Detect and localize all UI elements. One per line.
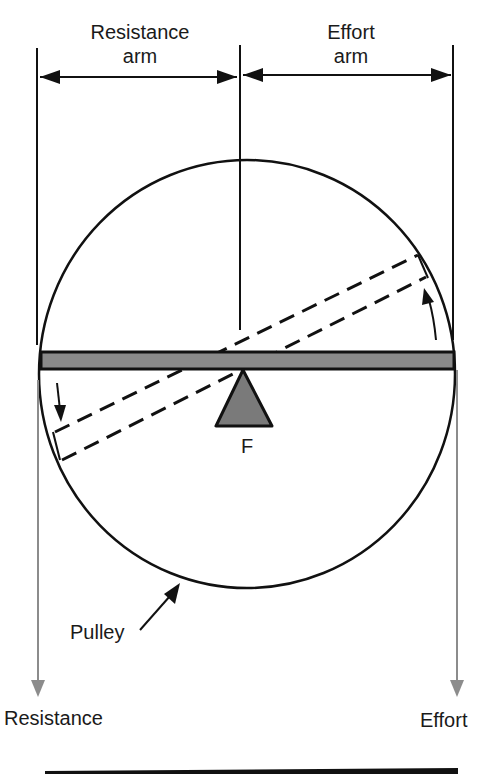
bottom-bar (45, 768, 458, 774)
rotation-arrow-down (54, 383, 66, 422)
effort-arm-label: Effort arm (296, 20, 406, 68)
rotation-arrow-up (422, 288, 436, 340)
pulley-pointer-arrow (140, 583, 180, 630)
lever-bar (41, 352, 454, 369)
effort-arm-label-line1: Effort (296, 20, 406, 44)
resistance-arm-dimension (40, 70, 237, 84)
effort-label: Effort (420, 708, 480, 732)
resistance-arm-label-line1: Resistance (70, 20, 210, 44)
effort-arm-label-line2: arm (296, 44, 406, 68)
resistance-force-arrow (31, 380, 45, 697)
pulley-lever-diagram (0, 0, 482, 774)
pulley-label: Pulley (70, 620, 140, 644)
effort-arm-dimension (243, 68, 451, 82)
resistance-arm-label: Resistance arm (70, 20, 210, 68)
resistance-label: Resistance (4, 706, 124, 730)
effort-force-arrow (450, 370, 464, 697)
resistance-arm-label-line2: arm (70, 44, 210, 68)
pulley-circle (39, 160, 455, 588)
fulcrum-label: F (236, 434, 258, 458)
